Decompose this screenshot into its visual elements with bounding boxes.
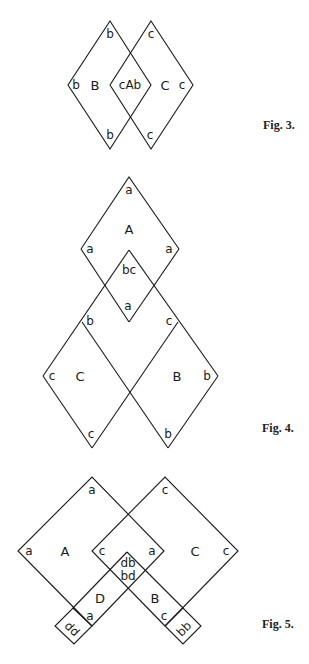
fig3-label-left-bottom: b <box>106 128 114 142</box>
fig4-label-b-top: c <box>166 314 173 328</box>
fig3-label-left-top: b <box>106 27 114 41</box>
fig5-label-dd: dd <box>62 619 83 640</box>
fig3-label-right-top: c <box>148 27 155 41</box>
fig5-caption: Fig. 5. <box>262 617 294 631</box>
fig4-caption: Fig. 4. <box>262 421 294 435</box>
fig3-label-region-c: C <box>160 78 169 93</box>
fig5-label-region-b: B <box>151 591 160 606</box>
fig3-label-left-left: b <box>72 78 80 92</box>
fig5-label-a-top: a <box>88 483 95 497</box>
fig4-line <box>129 250 218 376</box>
fig4-label-inner-bottom: a <box>124 299 131 313</box>
diagram-canvas: b b B b cAb c C c c Fig. 3. a A a a bc a… <box>0 0 309 664</box>
fig5-label-region-d: D <box>95 591 105 606</box>
fig5-label-a-left: a <box>25 544 32 558</box>
fig4-label-region-b: B <box>173 369 182 384</box>
fig4-label-c-bottom: c <box>88 427 95 441</box>
fig4-label-c-top: b <box>86 314 94 328</box>
fig3-label-right-right: c <box>179 78 186 92</box>
fig4-label-a-left: a <box>86 242 93 256</box>
fig4-label-inner-top: bc <box>122 263 136 277</box>
fig4-label-region-a: A <box>125 222 134 237</box>
fig5-label-center-upper: db <box>120 556 135 570</box>
fig5-label-b-end: c <box>161 609 168 623</box>
fig3-label-center: cAb <box>119 78 141 92</box>
figure-4: a A a a bc a b c C c c B b b Fig. 4. <box>43 177 294 448</box>
fig3-label-region-b: B <box>91 78 100 93</box>
fig4-label-b-bottom: b <box>164 427 172 441</box>
fig5-label-region-c: C <box>190 544 199 559</box>
fig3-label-right-bottom: c <box>147 128 154 142</box>
fig4-line <box>82 322 168 448</box>
fig4-label-a-top: a <box>125 183 132 197</box>
figure-5: a a A a c c C c db bd D a dd B c bb Fig.… <box>18 477 294 644</box>
figure-3: b b B b cAb c C c c Fig. 3. <box>68 21 295 149</box>
fig4-line <box>43 250 129 376</box>
fig5-label-c-top: c <box>162 483 169 497</box>
fig4-line <box>168 376 218 448</box>
fig4-label-a-right: a <box>165 242 172 256</box>
fig5-square-a <box>18 477 164 626</box>
fig4-label-b-right: b <box>203 369 211 383</box>
fig4-label-region-c: C <box>75 369 84 384</box>
fig5-label-region-a: A <box>61 544 70 559</box>
fig5-label-c-right: c <box>223 544 230 558</box>
fig5-label-a-right: a <box>148 544 155 558</box>
fig4-label-c-left: c <box>49 369 56 383</box>
fig5-label-center-lower: bd <box>120 569 135 583</box>
fig5-label-d-end: a <box>86 609 93 623</box>
fig4-line <box>43 376 92 448</box>
fig3-caption: Fig. 3. <box>263 118 295 132</box>
fig5-label-c-left: c <box>99 544 106 558</box>
